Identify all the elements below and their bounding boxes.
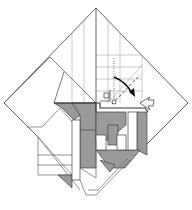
left-flap bbox=[4, 57, 96, 103]
origami-diagram bbox=[0, 0, 192, 210]
fold-arrow bbox=[114, 77, 135, 97]
pivot-circle bbox=[112, 100, 116, 104]
right-angle-marker bbox=[100, 90, 110, 101]
valley-fold-line bbox=[112, 75, 140, 104]
